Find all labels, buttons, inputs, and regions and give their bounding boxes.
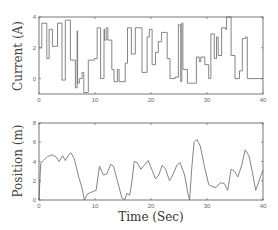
- current-axes-box: [39, 17, 263, 94]
- y-tick-label: 2: [33, 45, 37, 51]
- time-x-axis-label: Time (Sec): [118, 210, 184, 224]
- current-panel: Current (A) 010203040024: [11, 14, 267, 103]
- y-tick-label: 6: [33, 139, 37, 145]
- current-series-line: [39, 17, 263, 93]
- y-tick-label: 4: [33, 14, 37, 20]
- position-y-axis-label: Position (m): [11, 125, 25, 198]
- y-tick-label: 2: [33, 178, 37, 184]
- x-tick-label: 40: [260, 97, 267, 103]
- x-tick-label: 40: [260, 203, 267, 209]
- x-tick-label: 10: [92, 97, 99, 103]
- position-axes-box: [39, 123, 263, 200]
- x-tick-label: 30: [204, 203, 211, 209]
- x-tick-label: 20: [148, 97, 155, 103]
- x-tick-label: 10: [92, 203, 99, 209]
- y-tick-label: 0: [33, 76, 37, 82]
- x-tick-label: 0: [37, 203, 41, 209]
- current-ticks: 010203040024: [33, 14, 267, 103]
- current-y-axis-label: Current (A): [11, 21, 25, 91]
- x-tick-label: 20: [148, 203, 155, 209]
- x-tick-label: 30: [204, 97, 211, 103]
- y-tick-label: 4: [33, 159, 37, 165]
- figure: Current (A) 010203040024 Position (m) 01…: [0, 0, 278, 230]
- position-panel: Position (m) 01020304002468 Time (Sec): [11, 120, 267, 224]
- y-tick-label: 0: [33, 197, 37, 203]
- y-tick-label: 8: [33, 120, 37, 126]
- x-tick-label: 0: [37, 97, 41, 103]
- position-series-line: [39, 139, 263, 200]
